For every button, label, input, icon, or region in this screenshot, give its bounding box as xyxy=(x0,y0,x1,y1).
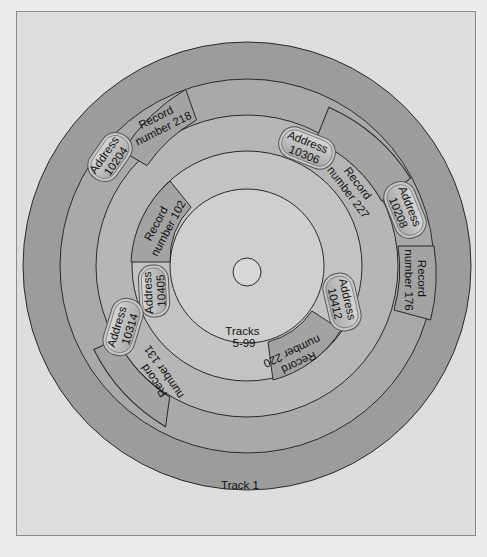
spindle-hole xyxy=(233,258,261,286)
disk-diagram: Address 10204 Address 10306 Address 1020… xyxy=(0,0,487,557)
track-1-label: Track 1 xyxy=(221,479,259,491)
address-10405-line1: Address xyxy=(141,271,155,314)
record-176-line1: Record xyxy=(416,260,428,297)
tracks-5-99-label-line2: 5-99 xyxy=(232,337,255,349)
address-10405-line2: 10405 xyxy=(154,274,168,307)
tracks-5-99-label-line1: Tracks xyxy=(225,325,259,337)
record-176-line2: number 176 xyxy=(403,249,415,310)
